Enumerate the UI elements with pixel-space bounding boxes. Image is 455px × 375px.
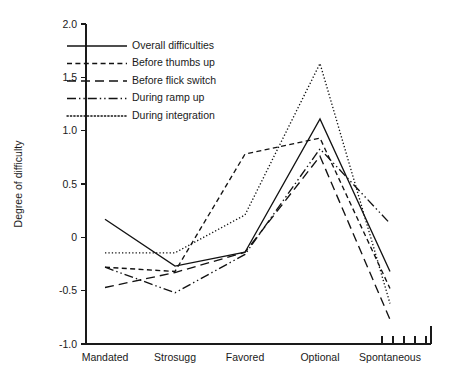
y-axis-ticks: 2.01.51.00.50-0.5-1.0 xyxy=(59,18,86,350)
y-tick-label: 0 xyxy=(71,231,77,243)
line-chart-svg: 2.01.51.00.50-0.5-1.0 MandatedStrosuggFa… xyxy=(0,0,455,375)
y-tick-label: -0.5 xyxy=(59,284,77,296)
legend-label-before-thumbs-up: Before thumbs up xyxy=(132,56,215,68)
x-axis-category-labels: MandatedStrosuggFavoredOptionalSpontaneo… xyxy=(82,351,421,363)
series-line-before-flick-switch xyxy=(105,156,390,319)
series-line-before-thumbs-up xyxy=(105,138,390,288)
legend-label-during-ramp-up: During ramp up xyxy=(132,91,205,103)
legend-label-during-integration: During integration xyxy=(132,109,215,121)
legend-label-overall-difficulties: Overall difficulties xyxy=(132,39,214,51)
x-axis-label-favored: Favored xyxy=(226,351,265,363)
y-tick-label: 1.0 xyxy=(62,124,77,136)
y-tick-label: 2.0 xyxy=(62,18,77,30)
x-axis-label-spontaneous: Spontaneous xyxy=(359,351,421,363)
x-axis-label-strosugg: Strosugg xyxy=(154,351,196,363)
x-axis-label-mandated: Mandated xyxy=(82,351,129,363)
y-axis-title: Degree of difficulty xyxy=(12,140,24,228)
y-tick-label: 0.5 xyxy=(62,178,77,190)
plot-axes xyxy=(86,24,431,344)
x-axis-label-optional: Optional xyxy=(300,351,339,363)
bottom-axis-stray-ticks xyxy=(382,336,426,344)
chart-legend: Overall difficultiesBefore thumbs upBefo… xyxy=(67,39,216,121)
y-tick-label: -1.0 xyxy=(59,338,77,350)
legend-label-before-flick-switch: Before flick switch xyxy=(132,74,216,86)
chart-figure: 2.01.51.00.50-0.5-1.0 MandatedStrosuggFa… xyxy=(0,0,455,375)
